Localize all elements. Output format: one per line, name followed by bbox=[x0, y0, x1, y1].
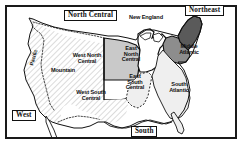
division-label-east-north-central: East North Central bbox=[117, 46, 145, 63]
division-label-mountain: Mountain bbox=[46, 68, 80, 74]
division-label-south-atlantic: South Atlantic bbox=[166, 82, 192, 93]
us-census-regions-map: West North Central Northeast South Pacif… bbox=[0, 0, 244, 146]
division-label-new-england: New England bbox=[124, 15, 168, 21]
map-graphic bbox=[0, 0, 244, 146]
division-label-east-south-central: East South Central bbox=[121, 74, 149, 91]
region-label-west: West bbox=[12, 110, 36, 121]
division-label-west-north-central: West North Central bbox=[68, 53, 106, 64]
region-label-northeast: Northeast bbox=[185, 5, 224, 16]
division-label-middle-atlantic: Middle Atlantic bbox=[176, 44, 202, 55]
region-label-south: South bbox=[131, 126, 157, 137]
region-label-north-central: North Central bbox=[64, 10, 117, 21]
division-label-west-south-central: West South Central bbox=[72, 90, 110, 101]
